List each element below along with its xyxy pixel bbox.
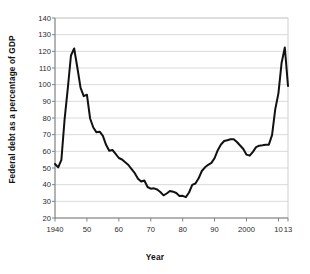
y-tick-label: 80 [25,114,51,123]
y-tick-label: 140 [25,14,51,23]
x-tick-label: 70 [138,225,164,234]
x-tick-label: 50 [74,225,100,234]
y-tick-label: 40 [25,180,51,189]
x-tick-label: 13 [275,225,301,234]
y-tick-label: 70 [25,130,51,139]
x-tick-label: 2000 [234,225,260,234]
y-tick-label: 100 [25,80,51,89]
x-tick-label: 80 [170,225,196,234]
y-tick-label: 110 [25,64,51,73]
y-tick-label: 60 [25,147,51,156]
y-tick-label: 120 [25,47,51,56]
y-tick-label: 130 [25,30,51,39]
x-axis-title: Year [0,252,310,262]
chart-container: Federal debt as a percentage of GDP 2030… [0,0,310,274]
y-tick-label: 90 [25,97,51,106]
y-tick-label: 30 [25,197,51,206]
y-tick-label: 20 [25,214,51,223]
y-tick-label: 50 [25,164,51,173]
x-tick-label: 90 [202,225,228,234]
x-tick-label: 60 [106,225,132,234]
x-tick-label: 1940 [42,225,68,234]
